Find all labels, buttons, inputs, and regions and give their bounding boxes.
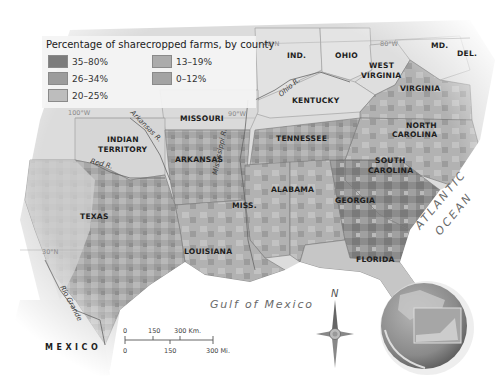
legend-swatch-20-25: [48, 89, 68, 102]
legend-label: 0–12%: [176, 74, 206, 84]
label-delaware: DEL.: [457, 49, 477, 58]
legend-item: 20–25%: [48, 89, 108, 102]
label-north-carolina-1: NORTH: [406, 121, 437, 130]
legend-title: Percentage of sharecropped farms, by cou…: [46, 39, 274, 50]
legend-item: 26–34%: [48, 72, 108, 85]
label-georgia: GEORGIA: [335, 196, 375, 205]
label-west-virginia-1: WEST: [369, 61, 395, 70]
label-maryland: MD.: [431, 41, 448, 50]
gulf-water: [110, 262, 420, 389]
label-west-virginia-2: VIRGINIA: [361, 71, 401, 80]
legend-label: 26–34%: [72, 74, 108, 84]
label-gulf-of-mexico: Gulf of Mexico: [210, 298, 314, 311]
legend-label: 35–80%: [72, 57, 108, 67]
label-indiana: IND.: [287, 51, 306, 60]
scale-mi-0: 0: [123, 347, 127, 355]
legend-item: 0–12%: [152, 72, 206, 85]
label-tennessee: TENNESSEE: [276, 134, 327, 143]
legend-swatch-0-12: [152, 72, 172, 85]
lon-90-label: 90°W: [228, 110, 247, 118]
lat-30-label: 30°N: [42, 248, 59, 256]
label-alabama: ALABAMA: [271, 185, 314, 194]
label-virginia: VIRGINIA: [400, 84, 440, 93]
label-louisiana: LOUISIANA: [184, 247, 232, 256]
legend-swatch-13-19: [152, 55, 172, 68]
label-ohio: OHIO: [335, 51, 358, 60]
label-north-carolina-2: CAROLINA: [392, 130, 437, 139]
locator-globe-icon: [380, 281, 474, 375]
compass-north-label: N: [331, 288, 339, 299]
lon-80-label: 80°W: [380, 40, 399, 48]
legend-swatch-26-34: [48, 72, 68, 85]
scale-mi-150: 150: [164, 347, 176, 355]
label-texas: TEXAS: [80, 212, 109, 221]
label-mexico: MEXICO: [45, 343, 101, 352]
scale-km-300: 300 Km.: [174, 327, 201, 335]
legend-swatch-35-80: [48, 55, 68, 68]
label-mississippi: MISS.: [232, 201, 257, 210]
legend-item: 35–80%: [48, 55, 108, 68]
label-missouri: MISSOURI: [180, 114, 224, 123]
legend-label: 13–19%: [176, 57, 212, 67]
scale-mi-300: 300 Mi.: [206, 347, 230, 355]
label-indian-territory-2: TERRITORY: [98, 145, 148, 154]
lon-100-label: 100°W: [68, 109, 91, 117]
scale-km-0: 0: [123, 327, 127, 335]
legend-label: 20–25%: [72, 91, 108, 101]
scale-km-150: 150: [148, 327, 160, 335]
label-south-carolina-2: CAROLINA: [368, 166, 413, 175]
legend: Percentage of sharecropped farms, by cou…: [42, 36, 256, 108]
label-florida: FLORIDA: [356, 255, 394, 264]
label-indian-territory-1: INDIAN: [107, 135, 139, 144]
label-south-carolina-1: SOUTH: [375, 156, 406, 165]
legend-item: 13–19%: [152, 55, 212, 68]
label-kentucky: KENTUCKY: [292, 96, 340, 105]
